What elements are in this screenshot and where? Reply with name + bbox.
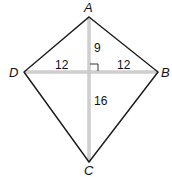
kite-outline [24, 17, 158, 162]
segment-ao-length: 9 [94, 42, 101, 54]
kite-diagram [0, 0, 172, 177]
segment-oc-length: 16 [94, 95, 107, 107]
segment-do-length: 12 [55, 59, 68, 71]
vertex-a-label: A [84, 1, 93, 14]
segment-ob-length: 12 [117, 59, 130, 71]
vertex-b-label: B [161, 66, 170, 79]
vertex-d-label: D [9, 66, 18, 79]
vertex-c-label: C [84, 164, 93, 177]
right-angle-mark [90, 64, 98, 71]
